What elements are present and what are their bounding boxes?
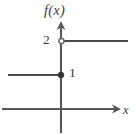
- graph-canvas: [0, 0, 136, 135]
- x-axis-label: x: [123, 104, 129, 117]
- y-tick-label-2: 2: [43, 33, 50, 47]
- y-tick-label-1: 1: [69, 66, 76, 80]
- closed-endpoint-marker: [58, 72, 64, 78]
- function-name-label: f(x): [44, 3, 65, 18]
- function-graph-figure: f(x) 2 1 x: [0, 0, 136, 135]
- open-endpoint-marker: [59, 38, 64, 43]
